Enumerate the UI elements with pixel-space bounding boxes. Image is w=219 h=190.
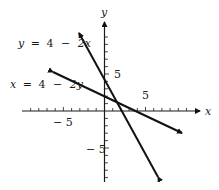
y-axis-ticks <box>105 37 110 178</box>
equation-label-1: y = 4 − 2x <box>17 37 92 50</box>
x-axis-label: x <box>205 105 212 118</box>
x-tick-label-5: 5 <box>142 89 149 102</box>
equation-label-2: x = 4 − 2y <box>10 78 84 91</box>
x-tick-label-neg5: − 5 <box>53 116 73 129</box>
y-axis-label: y <box>100 6 108 19</box>
svg-text:y = 4 −: y = 4 − 2x <box>17 37 92 50</box>
y-tick-label-neg5: − 5 <box>86 143 106 156</box>
coordinate-plot: x y − 5 5 5 − 5 y = 4 − 2x x = 4 − 2y <box>0 0 219 190</box>
svg-text:x = 4 −: x = 4 − 2y <box>10 78 84 91</box>
y-tick-label-5: 5 <box>114 68 121 81</box>
